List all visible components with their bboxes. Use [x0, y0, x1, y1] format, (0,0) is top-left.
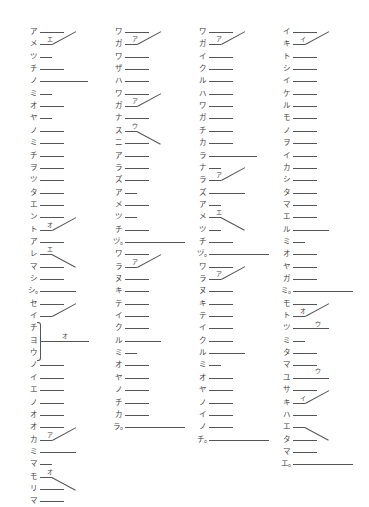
kana-character: サ: [281, 384, 291, 396]
kana-character: ヤ: [197, 384, 207, 396]
answer-line: [293, 316, 305, 317]
kana-character: キ: [113, 285, 123, 297]
column-row: マ: [281, 446, 369, 458]
answer-line: [209, 168, 221, 169]
connector-label: イ: [300, 35, 306, 42]
column-row: マ: [28, 458, 128, 470]
column-row: シ: [281, 63, 369, 75]
column-row: ガ: [281, 273, 369, 285]
answer-line: [293, 156, 317, 157]
kana-character: ナ: [113, 112, 123, 124]
answer-line: [209, 316, 233, 317]
kana-character: ワ: [113, 88, 123, 100]
column-row: タ: [281, 347, 369, 359]
column-row: マ: [281, 199, 369, 211]
kana-character: ガ: [197, 112, 207, 124]
answer-line: [40, 254, 52, 255]
kana-character: オ: [28, 409, 38, 421]
kana-character: タ: [28, 187, 38, 199]
kana-character: ア: [113, 187, 123, 199]
kana-character: ワ: [113, 51, 123, 63]
answer-line: [293, 242, 305, 243]
kana-character: ザ: [113, 63, 123, 75]
kana-character: ヤ: [28, 112, 38, 124]
column-row: キ: [281, 397, 369, 409]
answer-line: [209, 328, 233, 329]
kana-character: ル: [197, 347, 207, 359]
answer-line: [209, 242, 233, 243]
kana-character: ワ: [197, 100, 207, 112]
column-row: イ: [281, 75, 369, 87]
kana-character: メ: [113, 199, 123, 211]
column-row: ル: [281, 224, 369, 236]
answer-line: [125, 378, 149, 379]
kana-character: ガ: [281, 273, 291, 285]
kana-character: チ: [28, 63, 38, 75]
kana-character: イ: [28, 372, 38, 384]
kana-character: オ: [281, 248, 291, 260]
kana-character: ヲ: [28, 162, 38, 174]
connector-label: ア: [216, 270, 222, 277]
answer-line: [293, 118, 317, 119]
answer-line: [40, 316, 52, 317]
kana-character: マ: [28, 458, 38, 470]
kana-character: オ: [113, 359, 123, 371]
bracket-line: [41, 341, 89, 342]
kana-character: タ: [281, 434, 291, 446]
answer-line: [125, 217, 137, 218]
answer-line: [209, 118, 233, 119]
answer-line: [40, 242, 64, 243]
kana-character: ガ: [113, 100, 123, 112]
answer-line: [40, 390, 64, 391]
kana-character: ル: [113, 335, 123, 347]
kana-character: シ: [281, 174, 291, 186]
answer-line: [209, 69, 233, 70]
answer-line: [293, 440, 317, 441]
answer-line: [125, 304, 149, 305]
kana-character: ニ: [113, 137, 123, 149]
connector-label: イ: [300, 394, 306, 401]
kana-character: ガ: [113, 38, 123, 50]
answer-line: [125, 390, 149, 391]
kana-character: チ: [197, 125, 207, 137]
kana-character: チ: [113, 397, 123, 409]
kana-character: ナ: [197, 162, 207, 174]
kana-character: ミ: [281, 236, 291, 248]
answer-line: [125, 254, 149, 255]
column-row: エ: [281, 211, 369, 223]
column-row: エ: [281, 421, 369, 433]
answer-line: [209, 180, 221, 181]
kana-character: ン: [28, 211, 38, 223]
column-row: タ: [281, 187, 369, 199]
column-row: ト: [281, 310, 369, 322]
column-row: ル: [281, 100, 369, 112]
kana-character: チ。: [197, 434, 207, 446]
connector-label: ア: [216, 35, 222, 42]
answer-line: [40, 131, 64, 132]
answer-line: [125, 328, 149, 329]
answer-line: [293, 230, 329, 231]
kana-character: ズ: [113, 174, 123, 186]
kana-character: ハ: [197, 88, 207, 100]
answer-line: [40, 180, 64, 181]
kana-character: ノ: [113, 384, 123, 396]
answer-line: [293, 304, 317, 305]
column-row: ト: [281, 51, 369, 63]
kana-character: カ: [197, 137, 207, 149]
answer-line: [40, 81, 88, 82]
kana-character: エ: [281, 421, 291, 433]
answer-line: [293, 378, 329, 379]
connector-label: オ: [47, 221, 53, 228]
column-row: マ: [281, 359, 369, 371]
answer-line: [40, 489, 64, 490]
answer-line: [209, 291, 233, 292]
answer-line: [293, 69, 317, 70]
answer-line: [40, 279, 64, 280]
answer-line: [293, 57, 317, 58]
answer-line: [40, 94, 52, 95]
kana-character: タ: [281, 347, 291, 359]
column-row: ミ: [28, 446, 128, 458]
answer-line: [40, 44, 52, 45]
column-row: ハ: [281, 409, 369, 421]
kana-character: ク: [197, 63, 207, 75]
